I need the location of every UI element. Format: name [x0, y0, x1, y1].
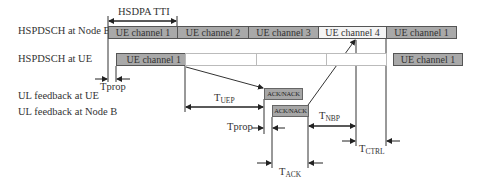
ue-segment-empty-1 [185, 53, 257, 66]
row-label-hspdsch-nodeb: HSPDSCH at Node B [18, 25, 110, 36]
t-ack-sub: ACK [285, 170, 301, 179]
ue-segment-ue-channel-1-next: UE channel 1 [393, 53, 463, 66]
t-nbp-label: TNBP [319, 110, 340, 123]
t-ctrl-sub: CTRL [365, 147, 384, 156]
row-label-ul-feedback-ue: UL feedback at UE [18, 90, 99, 101]
ack-nack-at-ue: ACK/NACK [264, 88, 303, 100]
ue-segment-ue-channel-1: UE channel 1 [116, 53, 186, 66]
ue-segment-empty-3 [326, 53, 387, 66]
nodeb-segment-ue-channel-1-next: UE channel 1 [386, 26, 457, 39]
ue-segment-empty-2 [256, 53, 327, 66]
tprop-label-1: Tprop [100, 81, 126, 92]
ack-nack-at-nodeb: ACK/NACK [272, 105, 309, 117]
t-uep-sub: UEP [220, 96, 234, 105]
t-uep-label: TUEP [214, 92, 235, 105]
nodeb-segment-ue-channel-2: UE channel 2 [177, 26, 249, 39]
nodeb-segment-ue-channel-1: UE channel 1 [108, 26, 178, 39]
nodeb-segment-ue-channel-3: UE channel 3 [248, 26, 319, 39]
t-nbp-sub: NBP [325, 114, 340, 123]
t-ctrl-label: TCTRL [359, 143, 385, 156]
hsdpa-tti-label: HSDPA TTI [118, 6, 170, 17]
row-label-ul-feedback-nodeb: UL feedback at Node B [18, 106, 117, 117]
tprop-label-2: Tprop [227, 121, 253, 132]
row-label-hspdsch-ue: HSPDSCH at UE [18, 53, 92, 64]
t-ack-label: TACK [279, 166, 301, 179]
nodeb-segment-ue-channel-4: UE channel 4 [318, 26, 387, 39]
